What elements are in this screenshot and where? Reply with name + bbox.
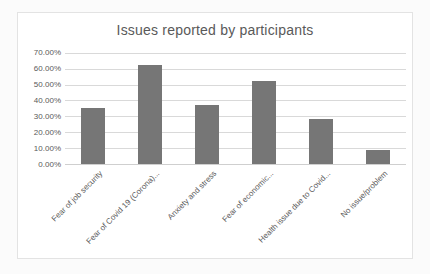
bar-2 bbox=[138, 65, 162, 164]
y-axis-tick-label: 50.00% bbox=[21, 80, 61, 89]
bar-3 bbox=[195, 105, 219, 164]
gridline bbox=[65, 85, 406, 86]
page: { "chart_data": { "type": "bar", "title"… bbox=[0, 0, 430, 274]
y-axis-tick-label: 20.00% bbox=[21, 128, 61, 137]
gridline bbox=[65, 100, 406, 101]
y-axis-tick-label: 10.00% bbox=[21, 144, 61, 153]
gridline bbox=[65, 53, 406, 54]
bar-1 bbox=[81, 108, 105, 164]
x-axis-line bbox=[65, 164, 406, 165]
y-axis-tick-label: 60.00% bbox=[21, 64, 61, 73]
bar-4 bbox=[252, 81, 276, 164]
chart-container: Issues reported by participants 0.00%10.… bbox=[17, 12, 413, 259]
plot-area: 0.00%10.00%20.00%30.00%40.00%50.00%60.00… bbox=[18, 13, 412, 258]
gridline bbox=[65, 132, 406, 133]
y-axis-tick-label: 0.00% bbox=[21, 160, 61, 169]
gridline bbox=[65, 116, 406, 117]
y-axis-tick-label: 70.00% bbox=[21, 48, 61, 57]
bar-6 bbox=[366, 150, 390, 164]
gridline bbox=[65, 69, 406, 70]
gridline bbox=[65, 148, 406, 149]
y-axis-tick-label: 40.00% bbox=[21, 96, 61, 105]
bar-5 bbox=[309, 119, 333, 164]
y-axis-tick-label: 30.00% bbox=[21, 112, 61, 121]
